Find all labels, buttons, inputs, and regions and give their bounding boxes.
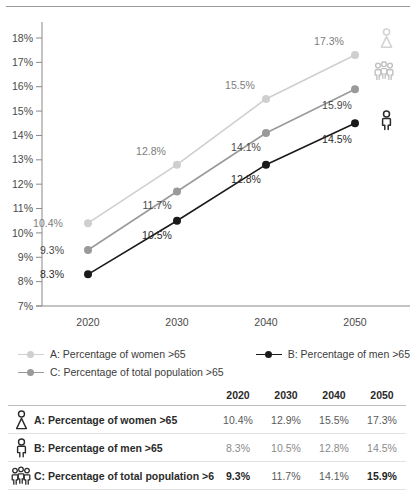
cell-b-2050: 14.5% [358,442,406,454]
series-end-icons [375,29,393,129]
data-label: 17.3% [314,35,344,47]
data-table: 2020 2030 2040 2050 A: Percentage of wom… [8,385,406,490]
series-a [84,51,359,227]
legend-label-a: A: Percentage of women >65 [50,349,186,360]
y-axis-tick-label: 14% [12,129,33,141]
data-point [173,217,181,225]
y-axis-tick-label: 9% [18,251,33,263]
data-point [262,95,270,103]
data-point [84,246,92,254]
cell-c-2050: 15.9% [358,470,406,482]
y-axis-tick-label: 12% [12,178,33,190]
row-label-c: C: Percentage of total population >65 [34,470,214,482]
legend-row-2: C: Percentage of total population >65 [18,363,404,381]
table-row[interactable]: B: Percentage of men >65 8.3% 10.5% 12.8… [8,434,406,462]
legend-row-1: A: Percentage of women >65 B: Percentage… [18,345,404,363]
data-point [351,85,359,93]
cell-a-2050: 17.3% [358,414,406,426]
cell-a-2040: 15.5% [310,414,358,426]
data-point [262,129,270,137]
chart-canvas: 18%17%16%15%14%13%12%11%10%9%8%7% 202020… [0,12,414,342]
legend-label-c: C: Percentage of total population >65 [50,367,224,378]
y-axis-tick-label: 15% [12,105,33,117]
legend-label-b: B: Percentage of men >65 [288,349,410,360]
data-label: 15.5% [225,79,255,91]
data-point [84,219,92,227]
data-label: 10.5% [142,229,172,241]
data-label: 12.8% [231,173,261,185]
y-axis-tick-label: 7% [18,300,33,312]
data-label: 14.5% [322,133,352,145]
x-axis-tick-label: 2020 [76,316,100,328]
y-axis: 18%17%16%15%14%13%12%11%10%9%8%7% [12,32,42,312]
group-icon [8,466,34,486]
legend-item-c[interactable]: C: Percentage of total population >65 [18,367,224,378]
row-label-b: B: Percentage of men >65 [34,442,214,454]
data-label: 11.7% [143,199,172,211]
data-point [351,51,359,59]
y-axis-tick-label: 13% [12,153,33,165]
header-year-2040: 2040 [310,389,358,401]
legend-marker-c [18,367,44,377]
legend-item-a[interactable]: A: Percentage of women >65 [18,349,186,360]
data-point [351,119,359,127]
data-label: 8.3% [40,268,64,280]
line-chart: 18%17%16%15%14%13%12%11%10%9%8%7% 202020… [0,12,414,342]
legend-marker-a [18,349,44,359]
data-label: 14.1% [231,141,261,153]
woman-icon [8,410,34,430]
chart-series [84,51,359,278]
header-year-2020: 2020 [214,389,262,401]
cell-b-2030: 10.5% [262,442,310,454]
data-point [173,161,181,169]
data-label: 15.9% [322,99,352,111]
series-c [84,85,359,254]
table-row[interactable]: C: Percentage of total population >65 9.… [8,462,406,490]
y-axis-tick-label: 16% [12,80,33,92]
data-label: 12.8% [136,145,166,157]
y-axis-tick-label: 17% [12,56,33,68]
data-point [262,161,270,169]
chart-axes [36,22,410,306]
y-axis-tick-label: 10% [12,227,33,239]
x-axis: 2020203020402050 [76,316,367,328]
header-year-2030: 2030 [262,389,310,401]
cell-b-2040: 12.8% [310,442,358,454]
cell-c-2020: 9.3% [214,470,262,482]
data-point [173,187,181,195]
x-axis-tick-label: 2050 [343,316,367,328]
data-labels: 10.4%12.8%15.5%17.3%9.3%11.7%14.1%15.9%8… [33,35,352,280]
cell-c-2030: 11.7% [262,470,310,482]
data-point [84,270,92,278]
cell-a-2030: 12.9% [262,414,310,426]
chart-legend: A: Percentage of women >65 B: Percentage… [18,345,404,381]
table-row[interactable]: A: Percentage of women >65 10.4% 12.9% 1… [8,406,406,434]
legend-marker-b [256,349,282,359]
table-header-row: 2020 2030 2040 2050 [8,385,406,406]
header-year-2050: 2050 [358,389,406,401]
legend-item-b[interactable]: B: Percentage of men >65 [256,349,410,360]
cell-a-2020: 10.4% [214,414,262,426]
man-icon [8,438,34,458]
cell-c-2040: 14.1% [310,470,358,482]
y-axis-tick-label: 18% [12,32,33,44]
x-axis-tick-label: 2030 [165,316,189,328]
row-label-a: A: Percentage of women >65 [34,414,214,426]
cell-b-2020: 8.3% [214,442,262,454]
y-axis-tick-label: 11% [13,202,33,214]
data-label: 10.4% [33,217,63,229]
y-axis-tick-label: 8% [18,275,33,287]
chart-page: 18%17%16%15%14%13%12%11%10%9%8%7% 202020… [0,0,414,496]
top-divider [6,6,410,7]
data-label: 9.3% [40,244,64,256]
x-axis-tick-label: 2040 [254,316,278,328]
